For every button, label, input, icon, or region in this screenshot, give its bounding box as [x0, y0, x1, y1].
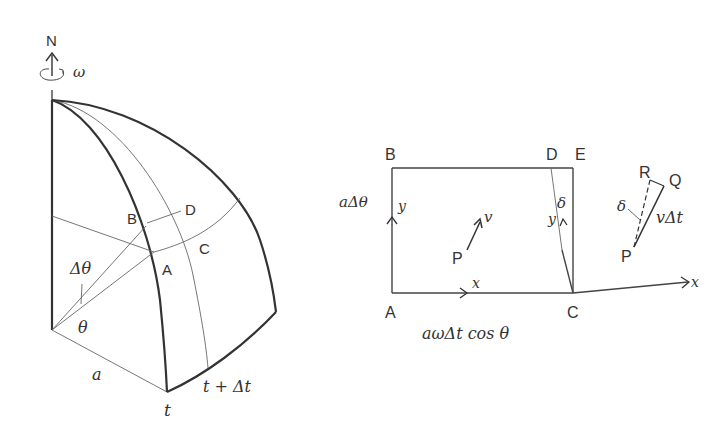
- y-label-C: y: [547, 211, 557, 227]
- particle-P-label: P: [452, 250, 463, 267]
- north-axis-arrow-icon: [46, 53, 58, 76]
- y-label-A: y: [397, 198, 407, 214]
- point-D-label: D: [185, 201, 196, 218]
- radius-a-line: [52, 330, 167, 392]
- point-B-label: B: [127, 210, 137, 227]
- theta-label: θ: [78, 318, 88, 337]
- corner-E-label: E: [575, 146, 586, 163]
- side-length-label: aΔθ: [339, 193, 368, 211]
- velocity-v-label: v: [484, 208, 493, 226]
- ray-to-A: [52, 252, 154, 330]
- delta-leader: [628, 209, 640, 220]
- point-Q-label: Q: [669, 172, 681, 189]
- outer-meridian: [52, 100, 276, 312]
- omega-label: ω: [73, 63, 85, 81]
- dashed-PR: [634, 180, 650, 247]
- y-arrow-icon-C: [560, 219, 567, 226]
- latitude-arc-theta-plus-dtheta: [147, 211, 181, 223]
- meridian-t-label: t: [164, 400, 171, 420]
- segment-RQ: [650, 180, 664, 186]
- sphere-sector-figure: N ω B D A C Δ: [40, 32, 276, 420]
- ray-to-B: [52, 226, 146, 330]
- corner-D-label: D: [546, 146, 558, 163]
- point-A-label: A: [162, 261, 172, 278]
- delta-angle-label: δ: [557, 194, 566, 212]
- velocity-vector: [467, 222, 480, 250]
- point-R-label: R: [639, 164, 651, 181]
- meridian-t: [52, 100, 167, 392]
- diagram-canvas: N ω B D A C Δ: [0, 0, 723, 436]
- displacement-label: vΔt: [656, 208, 684, 227]
- meridian-t-dt-label: t + Δt: [203, 377, 252, 396]
- point-C-label: C: [199, 240, 210, 257]
- delta-angle-label-2: δ: [617, 197, 626, 215]
- north-label: N: [46, 32, 57, 49]
- point-P-label: P: [621, 248, 632, 265]
- corner-A-label: A: [385, 304, 396, 321]
- line-DC-lower: [562, 250, 573, 293]
- corner-B-label: B: [385, 146, 396, 163]
- corner-C-label: C: [567, 304, 579, 321]
- bottom-length-label: aωΔt cos θ: [422, 324, 510, 343]
- displacement-triangle-figure: P Q R δ vΔt: [617, 164, 684, 265]
- rotated-x-axis: [573, 282, 688, 293]
- x-label-C: x: [691, 274, 699, 290]
- x-label-A: x: [472, 275, 480, 291]
- radius-a-label: a: [92, 365, 102, 384]
- meridian-t-plus-dt: [52, 100, 208, 368]
- delta-theta-label: Δθ: [69, 259, 92, 278]
- delta-theta-leader: [81, 284, 82, 304]
